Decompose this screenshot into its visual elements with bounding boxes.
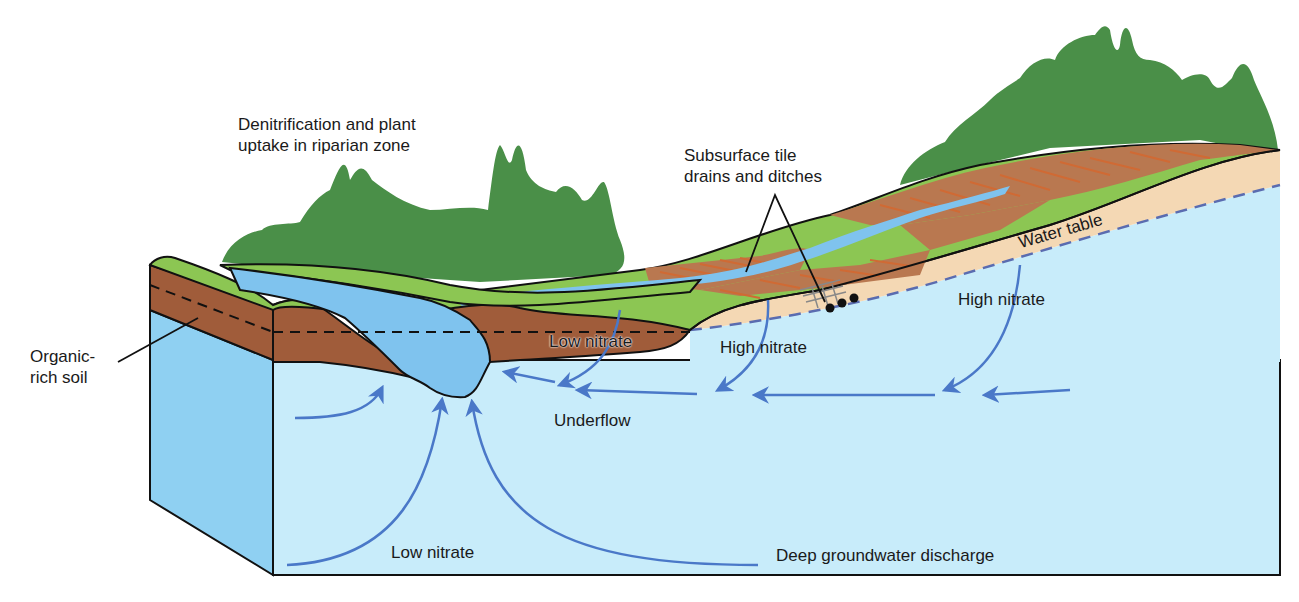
watershed-diagram [0, 0, 1299, 602]
label-deep-groundwater: Deep groundwater discharge [776, 545, 994, 566]
label-high-nitrate-right: High nitrate [958, 289, 1045, 310]
label-underflow: Underflow [554, 410, 631, 431]
label-low-nitrate-upper: Low nitrate [549, 331, 632, 352]
label-riparian-zone: Denitrification and plant uptake in ripa… [238, 114, 416, 156]
label-high-nitrate-mid: High nitrate [720, 337, 807, 358]
riparian-forest [222, 145, 624, 282]
label-tile-drains: Subsurface tile drains and ditches [684, 145, 822, 187]
label-organic-soil: Organic- rich soil [30, 346, 95, 388]
label-low-nitrate-lower: Low nitrate [391, 542, 474, 563]
